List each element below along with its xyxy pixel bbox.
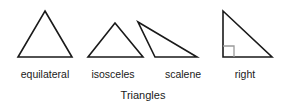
- diagram-caption: Triangles: [121, 89, 166, 101]
- right-angle-marker-icon: [223, 46, 234, 57]
- diagram-canvas: equilateral isosceles scalene right Tria…: [0, 0, 284, 106]
- equilateral-triangle: [18, 11, 72, 57]
- label-right: right: [235, 68, 256, 80]
- label-scalene: scalene: [165, 68, 201, 80]
- scalene-triangle: [138, 22, 197, 57]
- right-triangle: [223, 11, 272, 57]
- isosceles-triangle: [88, 23, 143, 57]
- label-isosceles: isosceles: [91, 68, 134, 80]
- label-equilateral: equilateral: [21, 68, 69, 80]
- triangles-diagram: equilateral isosceles scalene right Tria…: [0, 0, 284, 106]
